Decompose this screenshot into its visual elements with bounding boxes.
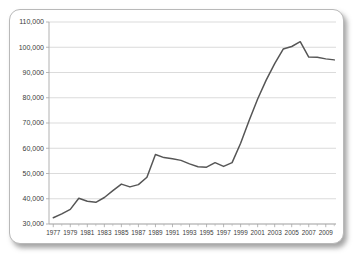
x-tick-label-1993: 1993 xyxy=(182,229,197,236)
x-tick-label-1999: 1999 xyxy=(234,229,249,236)
x-tick-label-1995: 1995 xyxy=(199,229,214,236)
data-series-line xyxy=(53,42,334,218)
x-tick-label-1983: 1983 xyxy=(97,229,112,236)
y-tick-label-60000: 60,000 xyxy=(23,145,45,152)
x-axis-labels-group: 1977197919811983198519871989199119931995… xyxy=(46,229,333,236)
y-tick-label-100000: 100,000 xyxy=(19,44,44,51)
y-tick-label-80000: 80,000 xyxy=(23,94,45,101)
y-tick-label-40000: 40,000 xyxy=(23,195,45,202)
x-tick-label-2003: 2003 xyxy=(268,229,283,236)
line-chart-svg: 30,00040,00050,00060,00070,00080,00090,0… xyxy=(10,10,344,244)
x-tick-label-1989: 1989 xyxy=(148,229,163,236)
x-tick-label-1991: 1991 xyxy=(165,229,180,236)
y-tick-label-90000: 90,000 xyxy=(23,69,45,76)
x-tick-label-1987: 1987 xyxy=(131,229,146,236)
y-axis-labels-group: 30,00040,00050,00060,00070,00080,00090,0… xyxy=(19,18,44,227)
chart-figure: 30,00040,00050,00060,00070,00080,00090,0… xyxy=(0,0,361,263)
x-tick-label-2005: 2005 xyxy=(285,229,300,236)
y-tick-label-30000: 30,000 xyxy=(23,220,45,227)
x-tick-label-2001: 2001 xyxy=(251,229,266,236)
plot-area: 30,00040,00050,00060,00070,00080,00090,0… xyxy=(10,10,344,244)
chart-panel: 30,00040,00050,00060,00070,00080,00090,0… xyxy=(9,9,344,244)
x-tick-label-1977: 1977 xyxy=(46,229,61,236)
y-tick-label-110000: 110,000 xyxy=(19,18,44,25)
x-tick-label-2009: 2009 xyxy=(319,229,334,236)
x-tick-label-1979: 1979 xyxy=(63,229,78,236)
y-tick-label-50000: 50,000 xyxy=(23,170,45,177)
y-tick-label-70000: 70,000 xyxy=(23,119,45,126)
gridlines-group xyxy=(49,22,336,224)
x-tick-label-1997: 1997 xyxy=(216,229,231,236)
x-tick-label-1981: 1981 xyxy=(80,229,95,236)
x-tick-label-1985: 1985 xyxy=(114,229,129,236)
x-tick-label-2007: 2007 xyxy=(302,229,317,236)
x-tick-marks-group xyxy=(53,224,326,227)
